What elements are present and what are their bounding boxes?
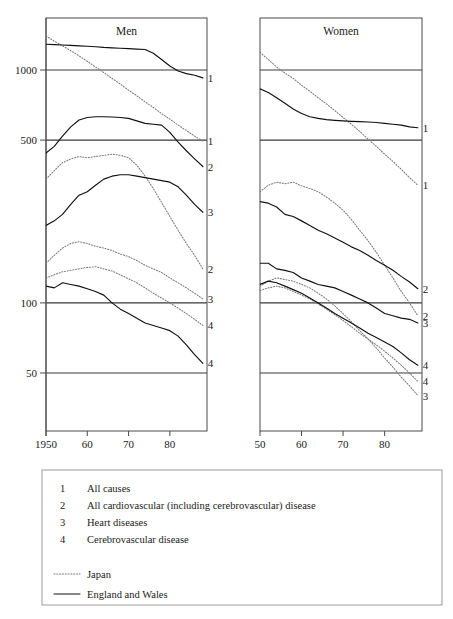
- series-england-and-wales-cause-2: [260, 202, 418, 289]
- y-tick-label: 500: [21, 134, 38, 146]
- x-tick-label: 60: [82, 438, 94, 450]
- curve-end-label: 3: [208, 206, 214, 218]
- series-japan-cause-4: [260, 286, 418, 381]
- series-england-and-wales-cause-3: [46, 175, 203, 226]
- y-tick-label: 50: [26, 367, 38, 379]
- series-england-and-wales-cause-4: [260, 281, 418, 365]
- curve-end-label: 3: [208, 293, 214, 305]
- legend-cause-number: 2: [60, 500, 65, 511]
- x-tick-label: 70: [338, 438, 350, 450]
- curves: [260, 52, 418, 395]
- curve-end-label: 2: [208, 161, 214, 173]
- curves: [46, 36, 203, 363]
- panel-title: Men: [116, 25, 137, 37]
- curve-end-label: 3: [423, 390, 429, 402]
- legend-cause-label: All causes: [87, 483, 130, 494]
- curve-end-label: 4: [208, 357, 214, 369]
- x-tick-label: 60: [296, 438, 308, 450]
- legend-cause-number: 4: [60, 534, 66, 545]
- legend-style-label: Japan: [87, 569, 112, 580]
- legend-cause-label: Cerebrovascular disease: [87, 534, 189, 545]
- curve-end-label: 3: [423, 317, 429, 329]
- panel-frame: [46, 18, 207, 431]
- panel-men: Men195060708010005001005011223344: [15, 18, 214, 450]
- legend-style-label: England and Wales: [87, 589, 168, 600]
- series-japan-cause-4: [46, 267, 203, 326]
- series-england-and-wales-cause-1: [46, 44, 203, 78]
- curve-end-label: 1: [208, 72, 214, 84]
- series-japan-cause-1: [260, 52, 418, 185]
- x-tick-label: 80: [379, 438, 391, 450]
- curve-end-label: 1: [423, 179, 429, 191]
- y-tick-label: 100: [21, 297, 38, 309]
- curve-end-label: 1: [423, 122, 429, 134]
- x-tick-label: 80: [164, 438, 176, 450]
- legend-cause-label: Heart diseases: [87, 517, 147, 528]
- curve-end-label: 4: [423, 375, 429, 387]
- panel-title: Women: [323, 25, 359, 37]
- series-japan-cause-2: [46, 154, 203, 269]
- legend: 1All causes2All cardiovascular (includin…: [42, 470, 442, 605]
- y-tick-label: 1000: [15, 64, 38, 76]
- curve-end-label: 4: [423, 359, 429, 371]
- panel-frame: [260, 18, 422, 431]
- series-england-and-wales-cause-4: [46, 283, 203, 364]
- series-england-and-wales-cause-3: [260, 263, 418, 323]
- series-japan-cause-2: [260, 182, 418, 316]
- series-japan-cause-3: [260, 278, 418, 396]
- x-tick-label: 50: [255, 438, 267, 450]
- x-tick-label: 1950: [35, 438, 58, 450]
- series-england-and-wales-cause-1: [260, 89, 418, 128]
- curve-end-label: 2: [423, 283, 429, 295]
- panel-women: Women5060708011223344: [255, 18, 429, 450]
- curve-end-label: 4: [208, 319, 214, 331]
- legend-cause-number: 3: [60, 517, 65, 528]
- curve-end-label: 2: [208, 263, 214, 275]
- chart-canvas: Men195060708010005001005011223344Women50…: [0, 0, 453, 619]
- x-tick-label: 70: [123, 438, 135, 450]
- mortality-trends-figure: Men195060708010005001005011223344Women50…: [0, 0, 453, 619]
- series-japan-cause-1: [46, 36, 203, 141]
- curve-end-label: 1: [208, 135, 214, 147]
- legend-cause-label: All cardiovascular (including cerebrovas…: [87, 500, 316, 512]
- legend-cause-number: 1: [60, 483, 65, 494]
